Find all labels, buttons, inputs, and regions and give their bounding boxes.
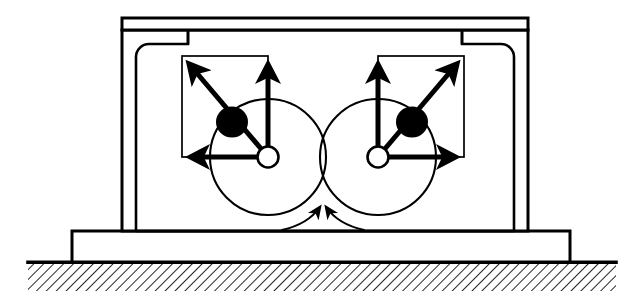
housing-body-outline bbox=[122, 30, 528, 231]
ground-hatching bbox=[28, 263, 616, 291]
base-plate bbox=[72, 231, 570, 262]
exciter-diagram bbox=[0, 0, 644, 307]
housing-lid bbox=[122, 18, 528, 30]
right-eccentric-mass bbox=[396, 107, 428, 138]
base-plate-outline bbox=[72, 231, 570, 262]
ground-group bbox=[28, 262, 616, 291]
left-shaft-circle bbox=[258, 147, 279, 168]
left-eccentric-mass bbox=[216, 107, 248, 138]
right-shaft-circle bbox=[368, 147, 389, 168]
machine-housing bbox=[122, 18, 528, 231]
diagram-stage bbox=[0, 0, 644, 307]
